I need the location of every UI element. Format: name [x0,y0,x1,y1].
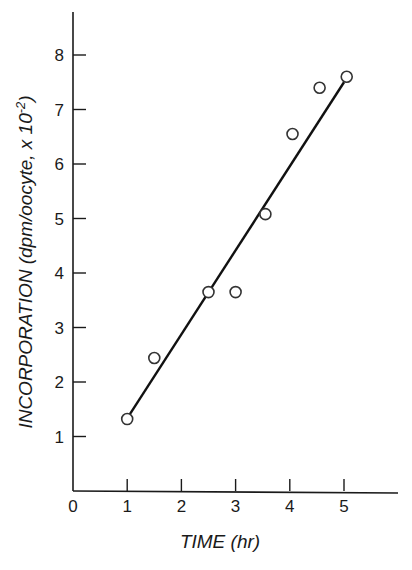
y-axis-title-main: INCORPORATION (dpm/oocyte, x 10 [15,113,36,429]
data-point [314,82,325,93]
y-axis-title-close: ) [15,95,36,103]
data-point [203,287,214,298]
y-axis: 12345678 [55,12,86,491]
x-tick-label: 3 [231,497,240,516]
data-point [230,287,241,298]
scatter-chart: 12345678 012345 TIME (hr) INCORPORATION … [0,0,412,570]
y-tick-label: 4 [55,264,64,283]
x-tick-label: 0 [68,497,77,516]
x-tick-label: 5 [339,497,348,516]
data-point [287,129,298,140]
data-point [341,71,352,82]
data-point [260,209,271,220]
y-tick-label: 7 [55,101,64,120]
x-tick-label: 4 [285,497,294,516]
data-point [149,353,160,364]
y-tick-label: 6 [55,155,64,174]
y-tick-label: 1 [55,428,64,447]
y-tick-label: 3 [55,319,64,338]
y-tick-label: 5 [55,210,64,229]
x-tick-label: 1 [122,497,131,516]
y-ticks: 12345678 [55,46,86,447]
regression-line [130,82,344,414]
x-axis-title: TIME (hr) [180,531,260,552]
x-axis-line [73,491,398,493]
y-axis-title: INCORPORATION (dpm/oocyte, x 10-2) [13,95,36,428]
x-ticks: 012345 [68,479,348,516]
fit-line [130,82,344,414]
y-tick-label: 2 [55,373,64,392]
x-axis: 012345 [68,479,398,516]
data-point [122,414,133,425]
y-axis-title-exponent: -2 [13,101,28,113]
y-tick-label: 8 [55,46,64,65]
x-tick-label: 2 [177,497,186,516]
